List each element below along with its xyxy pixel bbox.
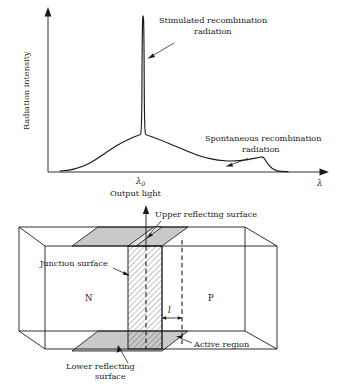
laser-diode-figure: Radiation intensity λ λ0 Output light St… (0, 0, 351, 392)
box-edge-top-left (19, 227, 45, 246)
y-axis (45, 7, 52, 172)
annotation-spontaneous-leader (230, 159, 248, 166)
p-region-label: P (208, 293, 214, 303)
annotation-stimulated-line1: Stimulated recombination (159, 15, 268, 25)
y-axis-arrowhead (45, 7, 52, 17)
device-diagram: l N P Junction surface Upper reflecting … (19, 205, 277, 381)
spectrum-plot: Radiation intensity λ λ0 Output light St… (21, 7, 329, 198)
annotation-stimulated-arrowhead (148, 54, 156, 59)
junction-slab-front-face (128, 246, 162, 349)
active-region-label: Active region (193, 339, 250, 349)
upper-reflecting-surface-label: Upper reflecting surface (155, 209, 257, 219)
y-axis-label: Radiation intensity (21, 51, 31, 130)
annotation-spontaneous-arrowhead (226, 163, 234, 167)
annotation-stimulated-leader (152, 43, 174, 56)
output-light-arrowhead (143, 205, 149, 214)
junction-surface-annotation: Junction surface (39, 258, 130, 276)
x-axis-symbol: λ (316, 178, 322, 188)
lower-reflecting-surface-label-line2: surface (95, 371, 126, 381)
annotation-spontaneous-line2: radiation (242, 144, 280, 154)
x-axis-caption: Output light (110, 188, 161, 198)
junction-surface-label: Junction surface (39, 258, 108, 268)
x-axis-arrowhead (320, 169, 330, 176)
svg-text:λ0: λ0 (135, 176, 145, 187)
annotation-stimulated: Stimulated recombination radiation (148, 15, 268, 59)
figure-root: Radiation intensity λ λ0 Output light St… (0, 0, 351, 392)
annotation-spontaneous-line1: Spontaneous recombination (205, 133, 322, 143)
length-dimension: l (162, 305, 183, 320)
length-symbol-label: l (168, 305, 171, 315)
box-edge-bottom-left (19, 331, 45, 349)
lower-reflecting-surface-label-line1: Lower reflecting (66, 361, 135, 371)
annotation-spontaneous: Spontaneous recombination radiation (205, 133, 322, 167)
box-edge-top-right (245, 227, 277, 246)
x-tick-lambda0: λ0 (135, 176, 145, 187)
box-edge-bottom-right (245, 331, 277, 349)
upper-reflecting-surface-shape (72, 227, 188, 246)
n-region-label: N (85, 293, 93, 303)
active-region-annotation: Active region (176, 335, 250, 349)
annotation-stimulated-line2: radiation (194, 26, 232, 36)
y-axis-label-line1: Radiation intensity (21, 51, 31, 130)
